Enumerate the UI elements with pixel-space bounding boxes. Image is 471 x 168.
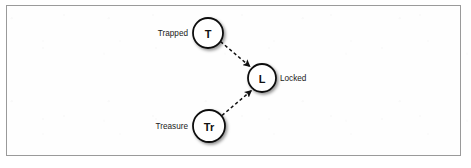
node-locked-caption: Locked — [280, 74, 307, 83]
node-locked-letter: L — [259, 73, 266, 85]
node-locked[interactable]: L Locked — [248, 64, 307, 92]
figure-root: T Trapped L Locked Tr Treasure — [0, 0, 471, 168]
node-trapped-caption: Trapped — [158, 29, 189, 38]
node-treasure-caption: Treasure — [156, 122, 189, 131]
node-treasure[interactable]: Tr Treasure — [156, 110, 225, 142]
edge-group — [221, 42, 252, 116]
state-diagram-canvas: T Trapped L Locked Tr Treasure — [0, 0, 471, 168]
node-treasure-letter: Tr — [204, 121, 215, 133]
node-trapped-letter: T — [205, 28, 212, 40]
node-trapped[interactable]: T Trapped — [158, 18, 223, 48]
edge-trapped-to-locked — [221, 42, 251, 67]
edge-treasure-to-locked — [222, 91, 252, 116]
